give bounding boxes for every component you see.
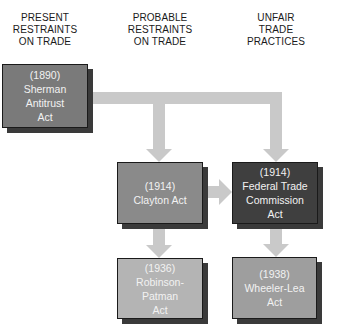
node-title-line: Commission	[242, 193, 307, 207]
node-year: (1890)	[24, 68, 67, 82]
node-title-line: Act	[244, 295, 304, 309]
header-line: PROBABLE	[115, 12, 205, 24]
node-title-line: Wheeler-Lea	[244, 281, 304, 295]
node-title-line: Sherman	[24, 82, 67, 96]
connector-clayton-to-robinson-shaft	[153, 228, 165, 245]
column-header-present-restraints: PRESENT RESTRAINTS ON TRADE	[0, 12, 90, 48]
node-title-line: Antitrust	[24, 96, 67, 110]
node-sherman-antitrust-act: (1890) Sherman Antitrust Act	[2, 64, 88, 128]
header-line: PRESENT	[0, 12, 90, 24]
node-federal-trade-commission-act: (1914) Federal Trade Commission Act	[232, 162, 318, 224]
node-year: (1914)	[242, 165, 307, 179]
arrow-down-icon	[146, 149, 172, 162]
connector-clayton-to-ftc-shaft	[207, 186, 219, 198]
header-line: PRACTICES	[231, 36, 321, 48]
arrow-right-icon	[219, 179, 232, 205]
connector-ftc-to-wheeler-shaft	[270, 228, 282, 244]
node-title-line: Robinson-	[136, 275, 184, 289]
header-line: UNFAIR	[231, 12, 321, 24]
node-title-line: Act	[242, 207, 307, 221]
node-title-line: Act	[24, 110, 67, 124]
header-line: ON TRADE	[0, 36, 90, 48]
connector-sherman-to-ftc-shaft	[270, 104, 282, 149]
node-clayton-act: (1914) Clayton Act	[117, 162, 203, 224]
node-title-line: Act	[136, 303, 184, 317]
node-title-line: Patman	[136, 289, 184, 303]
node-title-line: Federal Trade	[242, 179, 307, 193]
arrow-down-icon	[146, 245, 172, 258]
connector-sherman-horizontal	[88, 92, 282, 104]
arrow-down-icon	[263, 244, 289, 257]
node-year: (1936)	[136, 261, 184, 275]
column-header-unfair-trade-practices: UNFAIR TRADE PRACTICES	[231, 12, 321, 48]
node-robinson-patman-act: (1936) Robinson- Patman Act	[117, 258, 203, 319]
node-year: (1914)	[133, 179, 186, 193]
connector-sherman-to-clayton-shaft	[153, 104, 165, 149]
node-year: (1938)	[244, 267, 304, 281]
header-line: RESTRAINTS	[0, 24, 90, 36]
arrow-down-icon	[263, 149, 289, 162]
header-line: RESTRAINTS	[115, 24, 205, 36]
column-header-probable-restraints: PROBABLE RESTRAINTS ON TRADE	[115, 12, 205, 48]
node-title-line: Clayton Act	[133, 193, 186, 207]
header-line: ON TRADE	[115, 36, 205, 48]
header-line: TRADE	[231, 24, 321, 36]
node-wheeler-lea-act: (1938) Wheeler-Lea Act	[232, 257, 317, 319]
